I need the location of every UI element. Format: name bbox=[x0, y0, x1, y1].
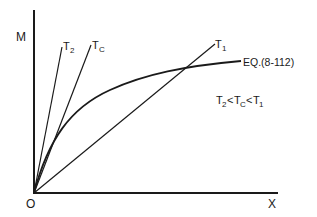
svg-text:T: T bbox=[63, 40, 70, 52]
temperature-relation: T 2 < T C < T 1 bbox=[216, 94, 264, 109]
svg-text:C: C bbox=[99, 45, 105, 54]
curve-eq-8-112 bbox=[34, 61, 241, 193]
line-t2 bbox=[34, 47, 62, 193]
diagram-canvas: M O X T 2 T C T 1 EQ.(8-112) T 2 < T C <… bbox=[0, 0, 317, 217]
svg-text:T: T bbox=[92, 39, 99, 51]
svg-text:T: T bbox=[215, 38, 222, 50]
line-tc bbox=[34, 45, 91, 193]
svg-text:<: < bbox=[246, 94, 252, 106]
svg-text:2: 2 bbox=[70, 46, 75, 55]
y-axis-label: M bbox=[16, 30, 26, 44]
label-t1: T 1 bbox=[215, 38, 227, 53]
line-t1 bbox=[34, 44, 215, 193]
x-axis-label: X bbox=[268, 197, 276, 211]
svg-text:1: 1 bbox=[259, 100, 264, 109]
svg-text:1: 1 bbox=[222, 44, 227, 53]
label-tc: T C bbox=[92, 39, 105, 54]
curve-label: EQ.(8-112) bbox=[243, 56, 294, 68]
svg-text:<: < bbox=[227, 94, 233, 106]
origin-label: O bbox=[26, 197, 35, 211]
label-t2: T 2 bbox=[63, 40, 75, 55]
